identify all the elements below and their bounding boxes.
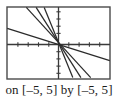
viewing-window-caption: on [–5, 5] by [–5, 5] [0,82,118,98]
plot-svg [6,6,111,80]
plot-area [6,6,111,80]
graphing-calculator-figure: on [–5, 5] by [–5, 5] [0,0,118,104]
